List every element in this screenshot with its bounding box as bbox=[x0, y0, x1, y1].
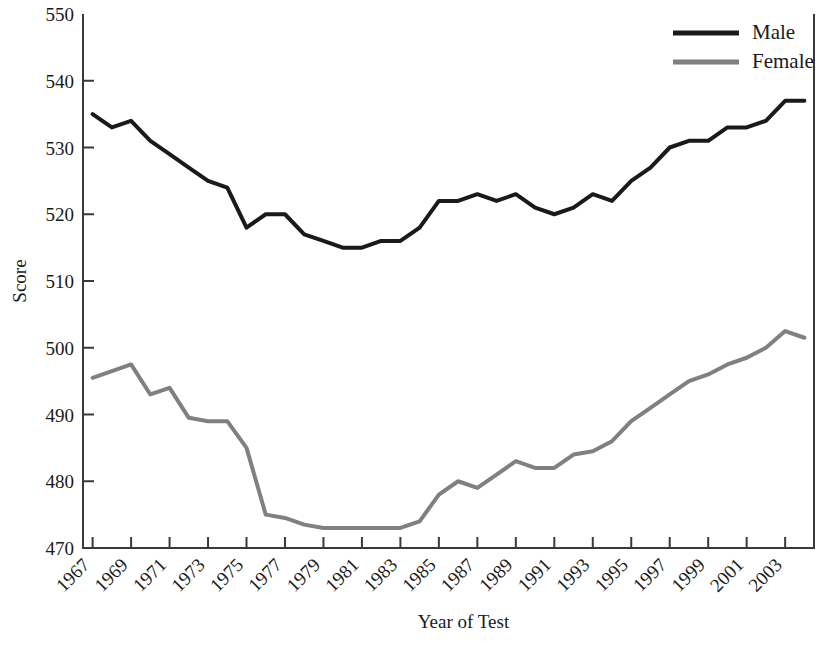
legend-label-female: Female bbox=[752, 49, 814, 73]
y-axis-title: Score bbox=[9, 259, 30, 302]
y-tick-label: 490 bbox=[46, 405, 75, 426]
y-tick-label: 540 bbox=[46, 71, 75, 92]
x-tick-label: 1971 bbox=[129, 554, 171, 596]
x-tick-label: 1973 bbox=[167, 554, 209, 596]
x-tick-label: 1993 bbox=[552, 554, 594, 596]
chart-figure: 470480490500510520530540550 196719691971… bbox=[0, 0, 832, 652]
y-tick-label: 530 bbox=[46, 138, 75, 159]
y-tick-label: 510 bbox=[46, 271, 75, 292]
y-tick-label: 550 bbox=[46, 4, 75, 25]
x-tick-label: 2001 bbox=[706, 554, 748, 596]
x-tick-label: 1987 bbox=[436, 554, 478, 596]
series-line-female bbox=[93, 331, 805, 528]
data-series-group bbox=[93, 101, 805, 528]
y-tick-label: 480 bbox=[46, 471, 75, 492]
series-line-male bbox=[93, 101, 805, 248]
y-tick-label: 470 bbox=[46, 538, 75, 559]
x-tick-label: 1981 bbox=[321, 554, 363, 596]
x-tick-label: 1995 bbox=[590, 554, 632, 596]
x-tick-label: 1969 bbox=[90, 554, 132, 596]
legend-label-male: Male bbox=[752, 20, 795, 44]
chart-legend: MaleFemale bbox=[673, 20, 814, 73]
x-axis-tick-labels: 1967196919711973197519771979198119831985… bbox=[52, 554, 786, 596]
x-tick-label: 1997 bbox=[629, 554, 671, 596]
y-axis-ticks bbox=[83, 81, 94, 482]
x-tick-label: 1985 bbox=[398, 554, 440, 596]
x-tick-label: 1991 bbox=[513, 554, 555, 596]
x-tick-label: 1989 bbox=[475, 554, 517, 596]
x-tick-label: 1979 bbox=[283, 554, 325, 596]
x-tick-label: 1967 bbox=[52, 554, 94, 596]
axis-frame bbox=[83, 14, 814, 548]
x-tick-label: 1983 bbox=[360, 554, 402, 596]
x-tick-label: 1977 bbox=[244, 554, 286, 596]
plot-frame bbox=[83, 14, 814, 548]
y-axis-tick-labels: 470480490500510520530540550 bbox=[46, 4, 75, 559]
x-tick-label: 2003 bbox=[744, 554, 786, 596]
x-tick-label: 1975 bbox=[206, 554, 248, 596]
y-tick-label: 520 bbox=[46, 204, 75, 225]
x-axis-ticks bbox=[93, 537, 786, 548]
x-tick-label: 1999 bbox=[667, 554, 709, 596]
chart-canvas: 470480490500510520530540550 196719691971… bbox=[0, 0, 832, 652]
x-axis-title: Year of Test bbox=[418, 611, 510, 632]
y-tick-label: 500 bbox=[46, 338, 75, 359]
